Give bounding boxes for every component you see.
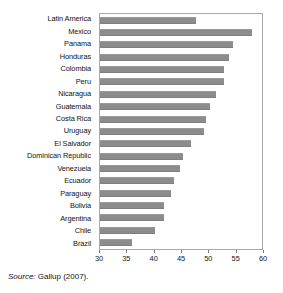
bar xyxy=(100,153,183,160)
bar-row xyxy=(100,214,262,222)
bar xyxy=(100,66,224,73)
bar-row xyxy=(100,127,262,135)
category-label: Colombia xyxy=(0,65,95,73)
bar xyxy=(100,116,206,123)
bar-row xyxy=(100,226,262,234)
bar xyxy=(100,78,224,85)
bar-row xyxy=(100,177,262,185)
bar-row xyxy=(100,239,262,247)
tick-mark xyxy=(181,250,182,253)
bar-row xyxy=(100,90,262,98)
category-label: Dominican Republic xyxy=(0,152,95,160)
tick-mark xyxy=(154,250,155,253)
figure-container: Latin AmericaMexicoPanamaHondurasColombi… xyxy=(0,0,283,293)
category-label: El Salvador xyxy=(0,140,95,148)
bar-chart: Latin AmericaMexicoPanamaHondurasColombi… xyxy=(0,0,283,258)
tick-label: 30 xyxy=(95,254,103,263)
category-label: Peru xyxy=(0,78,95,86)
category-axis: Latin AmericaMexicoPanamaHondurasColombi… xyxy=(0,13,95,250)
bar-row xyxy=(100,189,262,197)
category-label: Ecuador xyxy=(0,177,95,185)
tick-mark xyxy=(208,250,209,253)
category-label: Costa Rica xyxy=(0,115,95,123)
source-prefix: Source: xyxy=(8,272,36,281)
bar xyxy=(100,140,191,147)
bar xyxy=(100,214,164,221)
category-label: Paraguay xyxy=(0,190,95,198)
tick-label: 55 xyxy=(232,254,240,263)
bar xyxy=(100,91,216,98)
bar xyxy=(100,239,132,246)
source-text: Gallup (2007). xyxy=(36,272,89,281)
bar-row xyxy=(100,152,262,160)
bar xyxy=(100,190,171,197)
bars-layer xyxy=(100,14,262,249)
bar xyxy=(100,103,210,110)
bar-row xyxy=(100,16,262,24)
bar-row xyxy=(100,202,262,210)
category-label: Argentina xyxy=(0,215,95,223)
bar-row xyxy=(100,53,262,61)
category-label: Nicaragua xyxy=(0,90,95,98)
category-label: Venezuela xyxy=(0,165,95,173)
source-note: Source: Gallup (2007). xyxy=(8,272,89,282)
value-axis: 30354045505560 xyxy=(99,250,263,266)
tick-mark xyxy=(263,250,264,253)
category-label: Bolivia xyxy=(0,202,95,210)
bar xyxy=(100,41,233,48)
tick-mark xyxy=(126,250,127,253)
bar xyxy=(100,202,164,209)
bar xyxy=(100,227,155,234)
category-label: Chile xyxy=(0,227,95,235)
tick-label: 40 xyxy=(150,254,158,263)
tick-mark xyxy=(99,250,100,253)
bar xyxy=(100,177,174,184)
tick-label: 50 xyxy=(204,254,212,263)
tick-label: 45 xyxy=(177,254,185,263)
bar-row xyxy=(100,164,262,172)
category-label: Guatemala xyxy=(0,103,95,111)
tick-label: 35 xyxy=(122,254,130,263)
bar-row xyxy=(100,115,262,123)
category-label: Latin America xyxy=(0,15,95,23)
category-label: Brazil xyxy=(0,240,95,248)
category-label: Uruguay xyxy=(0,127,95,135)
bar-row xyxy=(100,140,262,148)
bar-row xyxy=(100,66,262,74)
plot-area xyxy=(99,13,263,250)
bar xyxy=(100,165,180,172)
bar xyxy=(100,29,252,36)
bar xyxy=(100,128,204,135)
bar-row xyxy=(100,29,262,37)
tick-mark xyxy=(236,250,237,253)
bar-row xyxy=(100,78,262,86)
bar xyxy=(100,17,196,24)
bar-row xyxy=(100,103,262,111)
bar-row xyxy=(100,41,262,49)
bar xyxy=(100,54,229,61)
category-label: Panama xyxy=(0,40,95,48)
tick-label: 60 xyxy=(259,254,267,263)
category-label: Mexico xyxy=(0,28,95,36)
category-label: Honduras xyxy=(0,53,95,61)
